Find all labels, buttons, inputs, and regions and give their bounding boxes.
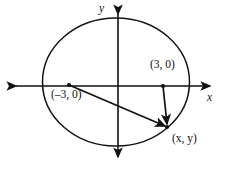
focus-right-label: (3, 0) — [150, 59, 175, 71]
y-axis-label: y — [99, 3, 104, 15]
focus-left-label: (–3, 0) — [51, 89, 82, 101]
diagram-canvas — [0, 0, 230, 178]
focus-right-dot — [161, 84, 165, 88]
segment-right-focus-to-point — [163, 86, 167, 124]
focus-left-dot — [67, 83, 71, 87]
point-xy-label: (x, y) — [172, 133, 197, 145]
point-xy-dot — [165, 125, 169, 129]
ellipse-diagram: x y (3, 0) (–3, 0) (x, y) — [0, 0, 230, 178]
x-axis-label: x — [207, 92, 212, 104]
segment-left-focus-to-point — [69, 85, 165, 126]
